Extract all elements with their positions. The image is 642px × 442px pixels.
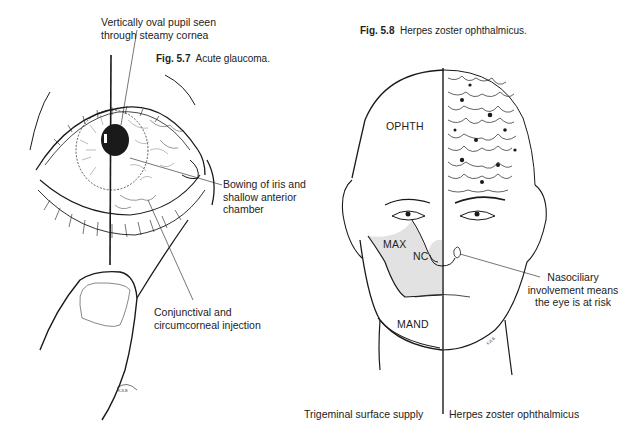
figure-number: Fig. 5.7	[156, 53, 190, 64]
figure-caption-5-7: Fig. 5.7 Acute glaucoma.	[156, 53, 270, 65]
label-iris: Bowing of iris and shallow anterior cham…	[223, 178, 306, 216]
bottom-label-herpes: Herpes zoster ophthalmicus	[449, 408, 579, 421]
face-illustration: KJLB	[342, 68, 546, 414]
label-nasociliary: Nasociliary involvement means the eye is…	[523, 271, 623, 309]
svg-text:KJLB: KJLB	[485, 336, 496, 346]
region-mand: MAND	[397, 318, 429, 330]
figure-number: Fig. 5.8	[360, 25, 394, 36]
bottom-label-trigeminal: Trigeminal surface supply	[304, 408, 423, 421]
label-pupil: Vertically oval pupil seen through steam…	[101, 16, 216, 41]
region-ophth: OPHTH	[386, 120, 424, 132]
label-injection: Conjunctival and circumcorneal injection	[154, 306, 261, 331]
eye-illustration: KJLB	[30, 30, 222, 420]
textbook-page: KJLB	[0, 0, 642, 442]
figure-caption-text: Acute glaucoma.	[195, 53, 270, 64]
svg-text:KJLB: KJLB	[118, 388, 128, 393]
illustrations: KJLB	[0, 0, 642, 442]
region-nc: NC	[413, 250, 429, 262]
figure-caption-5-8: Fig. 5.8 Herpes zoster ophthalmicus.	[360, 25, 527, 37]
figure-caption-text: Herpes zoster ophthalmicus.	[400, 25, 527, 36]
region-max: MAX	[383, 238, 406, 250]
